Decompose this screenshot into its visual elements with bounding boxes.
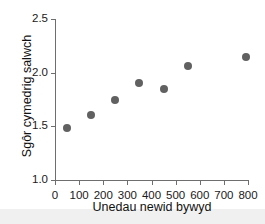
scatter-plot-area: 1.01.52.02.5 0100200300400500600700800 U… [0,0,265,224]
data-point [111,96,119,104]
y-tick-mark [51,126,55,127]
y-axis-title: Sgôr cymedrig salwch [20,35,34,157]
y-axis-title-wrapper: Sgôr cymedrig salwch [19,6,35,186]
data-point [160,85,168,93]
data-point [135,79,143,87]
chart-figure: 1.01.52.02.5 0100200300400500600700800 U… [0,0,265,224]
data-point [184,62,192,70]
y-tick-mark [51,19,55,20]
data-point [63,124,71,132]
x-axis-title: Unedau newid bywyd [55,200,249,214]
y-tick-mark [51,73,55,74]
data-point [87,111,95,119]
data-point [242,53,250,61]
y-axis-line [55,19,56,181]
